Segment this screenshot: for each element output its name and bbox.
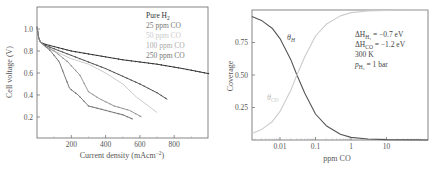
right-x-tick-label: 0.01 — [273, 142, 286, 151]
legend-entry: 250 ppm CO — [146, 51, 185, 60]
right-y-tick-label: 0.50 — [235, 71, 248, 80]
theta-h-label: θH — [287, 33, 296, 43]
left-y-tick-label: 0.2 — [24, 113, 34, 122]
right-y-tick-label: 0.75 — [235, 38, 248, 47]
svg-text:pH₂ = 1 bar: pH₂ = 1 bar — [354, 60, 388, 70]
theta-co-label: θCO — [267, 93, 279, 103]
left-chart-polarization: 200400600800 0.20.40.60.81.0 Cell voltag… — [5, 7, 209, 160]
left-x-tick-label: 400 — [100, 140, 112, 149]
right-x-axis: 0.010.1110 — [255, 137, 420, 151]
right-y-tick-label: 0.25 — [235, 103, 248, 112]
svg-text:ΔHH₂ = −0.7 eV: ΔHH₂ = −0.7 eV — [355, 30, 404, 40]
figure: 200400600800 0.20.40.60.81.0 Cell voltag… — [0, 0, 431, 173]
legend-entry: 100 ppm CO — [146, 41, 185, 50]
left-y-tick-label: 1.0 — [24, 25, 34, 34]
left-y-tick-label: 0.4 — [24, 91, 34, 100]
conditions-annotation: ΔHH₂ = −0.7 eV ΔHCO = −1.2 eV 300 K pH₂ … — [354, 30, 406, 70]
legend-entry: 25 ppm CO — [146, 21, 182, 30]
left-x-tick-label: 800 — [169, 140, 181, 149]
left-x-tick-label: 200 — [66, 140, 78, 149]
right-x-tick-label: 0.1 — [311, 142, 321, 151]
right-y-axis-title: Coverage — [226, 60, 235, 91]
right-series-line — [252, 10, 428, 134]
left-plot-frame — [37, 7, 208, 138]
left-y-axis-title: Cell voltage (V) — [5, 46, 14, 98]
left-x-axis-title: Current density (mAcm−2) — [80, 150, 165, 160]
left-x-tick-label: 600 — [134, 140, 146, 149]
left-series-line — [37, 27, 133, 119]
right-chart-coverage: 0.010.1110 0.250.500.75 Coverage ppm CO … — [226, 10, 428, 163]
svg-text:ΔHCO = −1.2 eV: ΔHCO = −1.2 eV — [355, 40, 406, 50]
left-x-axis: 200400600800 — [54, 135, 191, 149]
right-x-tick-label: 1 — [349, 142, 353, 151]
left-series-line — [37, 27, 157, 113]
right-x-axis-title: ppm CO — [323, 154, 351, 163]
legend-entry: Pure H2 — [146, 11, 170, 21]
left-legend: Pure H225 ppm CO50 ppm CO100 ppm CO250 p… — [146, 11, 185, 60]
legend-entry: 50 ppm CO — [146, 31, 182, 40]
left-y-tick-label: 0.8 — [24, 47, 34, 56]
left-series-line — [37, 27, 142, 117]
svg-text:300 K: 300 K — [355, 50, 374, 59]
left-y-tick-label: 0.6 — [24, 69, 34, 78]
right-x-tick-label: 10 — [383, 142, 391, 151]
left-y-axis: 0.20.40.60.81.0 — [24, 25, 40, 122]
